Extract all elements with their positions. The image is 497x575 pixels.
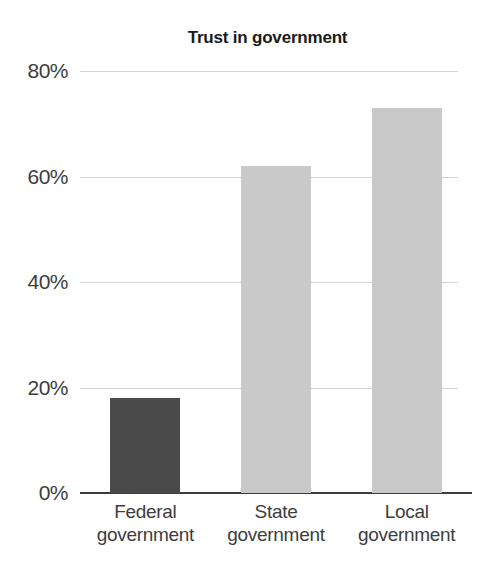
x-axis-label-line: State	[211, 500, 342, 523]
y-axis-tick-label: 0%	[0, 481, 68, 505]
bar-chart: Trust in government 0%20%40%60%80% Feder…	[0, 0, 497, 575]
x-axis-category-label: Stategovernment	[211, 500, 342, 546]
x-axis-label-line: Local	[341, 500, 472, 523]
plot-area: 0%20%40%60%80%	[80, 71, 472, 493]
bar-1[interactable]	[241, 166, 311, 493]
y-axis-tick-label: 20%	[0, 376, 68, 400]
y-axis-tick-label: 40%	[0, 270, 68, 294]
chart-title: Trust in government	[0, 28, 497, 48]
bar-2[interactable]	[372, 108, 442, 493]
y-axis-tick-label: 80%	[0, 59, 68, 83]
x-axis-label-line: government	[211, 523, 342, 546]
x-axis-label-line: government	[80, 523, 211, 546]
y-axis-tick-label: 60%	[0, 165, 68, 189]
x-axis-label-line: government	[341, 523, 472, 546]
gridline-80	[80, 71, 458, 72]
x-axis-label-line: Federal	[80, 500, 211, 523]
x-axis-category-label: Localgovernment	[341, 500, 472, 546]
bar-0[interactable]	[110, 398, 180, 493]
x-axis-category-label: Federalgovernment	[80, 500, 211, 546]
